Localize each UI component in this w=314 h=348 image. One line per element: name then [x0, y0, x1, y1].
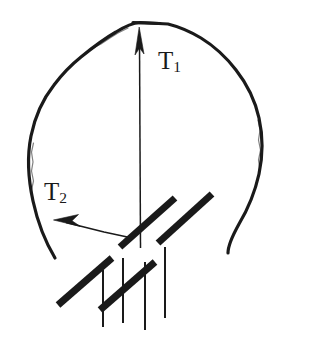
- label-t1: T1: [158, 48, 181, 74]
- head-contour-jitter-top: [86, 28, 128, 53]
- label-t2-base: T: [44, 178, 59, 205]
- label-t1-sub: 1: [173, 58, 181, 75]
- diagram-svg: [0, 0, 314, 348]
- label-t2-sub: 2: [59, 189, 67, 206]
- head-contour-apex-flat: [133, 23, 160, 24]
- figure-canvas: T1 T2: [0, 0, 314, 348]
- t1-arrow-shaft: [140, 40, 141, 248]
- label-t1-base: T: [158, 47, 173, 74]
- t2-arrow: [54, 215, 133, 239]
- fixed-support-hatch: [58, 194, 212, 330]
- t2-arrowhead: [54, 215, 81, 227]
- label-t2: T2: [44, 179, 67, 205]
- hatch-bar: [100, 262, 155, 310]
- hatch-thick-bars: [58, 194, 212, 310]
- t1-arrow: [135, 27, 144, 248]
